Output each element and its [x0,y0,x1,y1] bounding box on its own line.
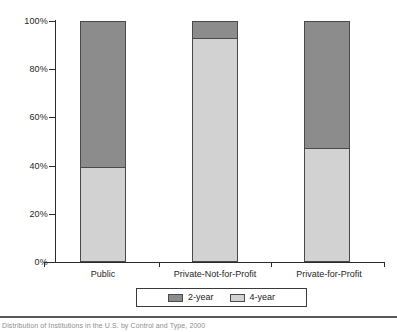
footer-divider [0,316,397,318]
stacked-bar-chart-figure: 100% 80% 60% 40% 20% 0% Public Private-N… [0,0,397,332]
bar-private-for-profit[interactable] [304,21,350,262]
y-axis-label-20: 20% [4,210,48,219]
y-axis-label-0: 0% [4,258,48,267]
x-axis-tick-2 [271,262,272,267]
x-axis-label-public: Public [57,269,149,279]
legend-label-4-year: 4-year [250,293,276,302]
bar-public[interactable] [80,21,126,262]
legend-label-2-year: 2-year [188,293,214,302]
figure-caption: Distribution of Institutions in the U.S.… [2,322,395,330]
y-axis-tick-100 [49,21,55,22]
x-axis-label-private-for-profit: Private-for-Profit [274,269,384,279]
legend-swatch-2-year-icon [168,294,183,302]
legend-swatch-4-year-icon [230,294,245,302]
y-axis-label-100: 100% [4,17,48,26]
chart-legend: 2-year 4-year [136,288,307,307]
x-axis-line [44,262,385,263]
y-axis-label-40: 40% [4,162,48,171]
bar-public-segment-2-year [81,22,125,168]
y-axis-label-60: 60% [4,113,48,122]
y-axis-tick-80 [49,69,55,70]
bar-public-segment-4-year [81,168,125,261]
y-axis-tick-20 [49,214,55,215]
bar-private-for-profit-segment-2-year [305,22,349,149]
y-axis-tick-40 [49,166,55,167]
legend-item-2-year[interactable]: 2-year [168,293,214,302]
x-axis-tick-left-end [44,262,45,267]
x-axis-tick-1 [159,262,160,267]
bar-private-not-for-profit[interactable] [192,21,238,262]
x-axis-label-private-not-for-profit: Private-Not-for-Profit [159,269,271,279]
y-axis-tick-60 [49,117,55,118]
x-axis-tick-right-end [384,262,385,267]
bar-private-not-for-profit-segment-4-year [193,39,237,261]
bar-private-for-profit-segment-4-year [305,149,349,261]
legend-item-4-year[interactable]: 4-year [230,293,276,302]
plot-area [56,21,353,262]
y-axis-label-80: 80% [4,65,48,74]
bar-private-not-for-profit-segment-2-year [193,22,237,39]
